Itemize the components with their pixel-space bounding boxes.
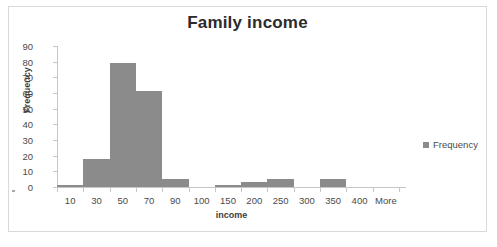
x-axis-tick-mark (320, 188, 321, 192)
x-axis-tick-mark (399, 188, 400, 192)
y-axis-tick-label: 50 (9, 103, 33, 114)
bar[interactable] (136, 91, 162, 187)
x-axis-tick-label: More (366, 195, 406, 206)
x-axis-tick-mark (136, 188, 137, 192)
y-axis-tick-label: 20 (9, 150, 33, 161)
y-axis-tick-label: 80 (9, 56, 33, 67)
bar[interactable] (267, 179, 293, 187)
bar[interactable] (83, 159, 109, 187)
y-axis-tick-label: 10 (9, 166, 33, 177)
chart-container[interactable]: Family income Frequency 0102030405060708… (8, 6, 487, 232)
chart-legend[interactable]: Frequency (423, 139, 478, 150)
x-axis-tick-mark (215, 188, 216, 192)
bar[interactable] (57, 185, 83, 187)
x-axis-tick-mark (57, 188, 58, 192)
y-axis-tick-label: 40 (9, 119, 33, 130)
x-axis-tick-mark (267, 188, 268, 192)
x-axis-tick-mark (189, 188, 190, 192)
bar[interactable] (241, 182, 267, 187)
legend-label-frequency: Frequency (433, 139, 478, 150)
y-axis-tick-label: 30 (9, 135, 33, 146)
bar[interactable] (162, 179, 188, 187)
x-axis-tick-mark (346, 188, 347, 192)
x-axis-tick-mark (294, 188, 295, 192)
plot-area (57, 46, 399, 187)
legend-swatch-frequency (423, 142, 429, 148)
chart-title[interactable]: Family income (9, 13, 486, 33)
x-axis-tick-mark (110, 188, 111, 192)
y-axis-tick-label: 60 (9, 88, 33, 99)
y-axis-tick-label: 90 (9, 41, 33, 52)
bar[interactable] (320, 179, 346, 187)
bar[interactable] (110, 63, 136, 187)
x-axis-title[interactable]: income (57, 210, 406, 220)
x-axis-tick-mark (162, 188, 163, 192)
x-axis-tick-mark (241, 188, 242, 192)
x-axis-tick-mark (373, 188, 374, 192)
bar[interactable] (215, 185, 241, 187)
left-edge-artifact (12, 190, 15, 192)
y-axis-tick-label: 70 (9, 72, 33, 83)
x-axis-tick-mark (83, 188, 84, 192)
